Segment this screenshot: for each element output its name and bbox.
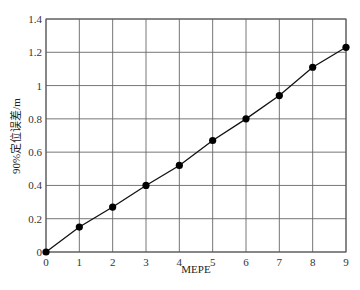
y-tick-label: 0.2 — [28, 213, 42, 225]
x-tick-label: 7 — [277, 256, 283, 268]
data-point-marker — [142, 182, 149, 189]
y-tick-label: 0.6 — [28, 146, 42, 158]
y-tick-label: 1.2 — [28, 46, 42, 58]
y-tick-label: 0.4 — [28, 179, 42, 191]
data-line — [46, 47, 346, 252]
x-tick-label: 5 — [210, 256, 216, 268]
x-tick-label: 9 — [343, 256, 349, 268]
data-point-marker — [309, 64, 316, 71]
y-axis-label: 90%定位误差/m — [9, 98, 22, 174]
data-point-marker — [242, 115, 249, 122]
y-tick-label: 0.8 — [28, 113, 42, 125]
data-point-marker — [176, 162, 183, 169]
x-tick-label: 2 — [110, 256, 116, 268]
data-point-marker — [342, 44, 349, 51]
data-point-marker — [76, 223, 83, 230]
x-tick-label: 3 — [143, 256, 149, 268]
plot-area-frame — [46, 19, 346, 252]
y-axis-ticks: 00.20.40.60.811.21.4 — [28, 13, 42, 258]
data-point-marker — [276, 92, 283, 99]
x-axis-label: MEPE — [181, 263, 211, 275]
grid-lines — [46, 19, 346, 252]
line-chart: 00.20.40.60.811.21.4 0123456789 MEPE 90%… — [0, 0, 360, 290]
data-point-marker — [42, 248, 49, 255]
x-tick-label: 1 — [77, 256, 83, 268]
x-tick-label: 0 — [43, 256, 49, 268]
data-point-marker — [109, 203, 116, 210]
x-tick-label: 8 — [310, 256, 316, 268]
y-tick-label: 1 — [37, 80, 43, 92]
y-tick-label: 0 — [37, 246, 43, 258]
x-tick-label: 6 — [243, 256, 249, 268]
data-point-marker — [209, 137, 216, 144]
y-tick-label: 1.4 — [28, 13, 42, 25]
